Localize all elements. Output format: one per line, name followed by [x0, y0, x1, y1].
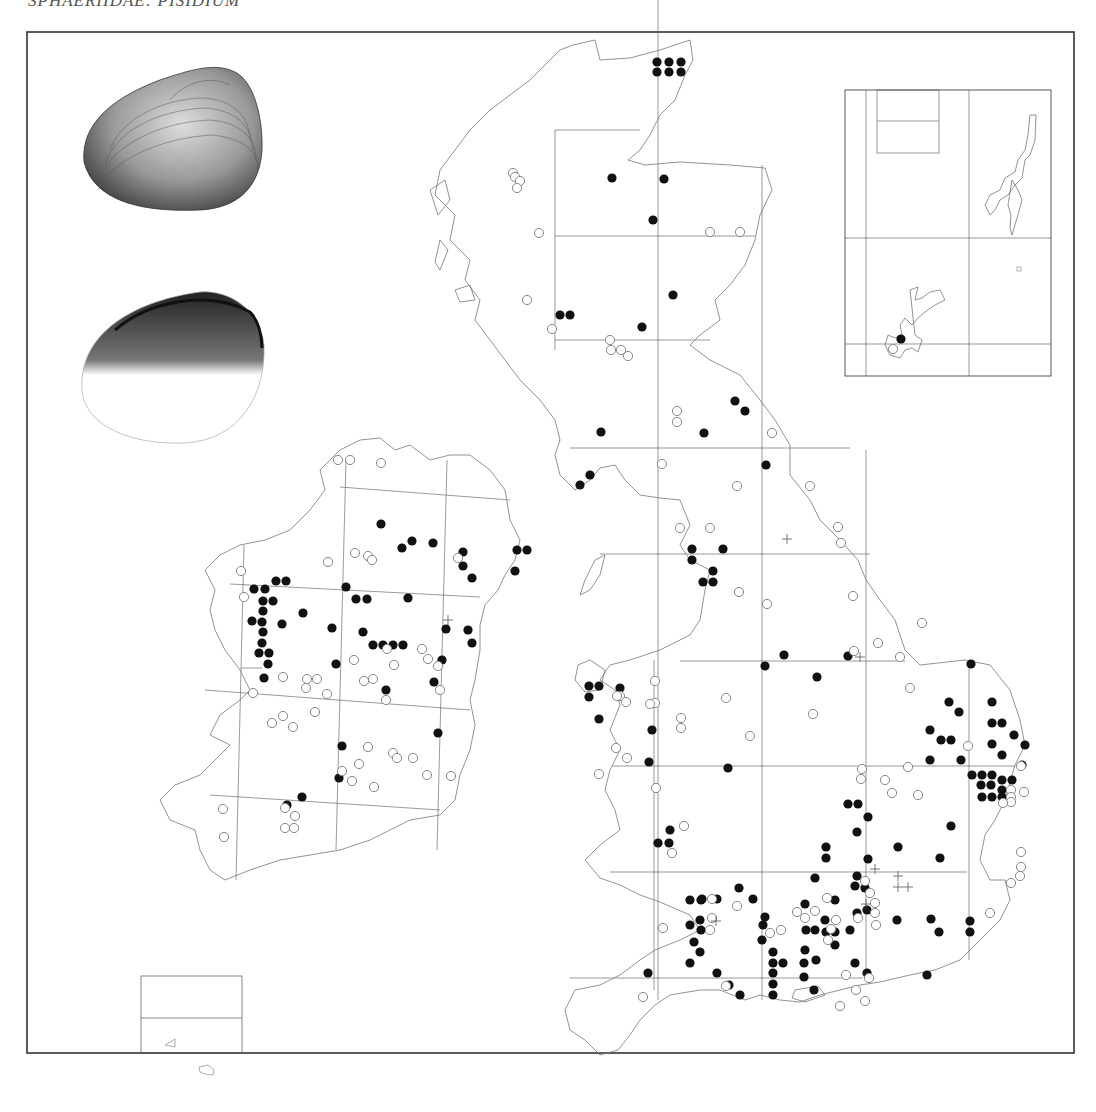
open-record-circle: [833, 522, 842, 531]
filled-record-dot: [757, 935, 766, 944]
open-record-circle: [650, 676, 659, 685]
filled-record-dot: [596, 427, 605, 436]
filled-record-dot: [820, 915, 829, 924]
filled-record-dot: [676, 57, 685, 66]
filled-record-dot: [644, 757, 653, 766]
filled-record-dot: [698, 577, 707, 586]
open-record-circle: [903, 762, 912, 771]
open-record-circle: [792, 907, 801, 916]
filled-record-dot: [893, 842, 902, 851]
open-record-circle: [808, 709, 817, 718]
open-record-circle: [888, 344, 897, 353]
filled-record-dot: [575, 480, 584, 489]
open-record-circle: [382, 644, 391, 653]
filled-record-dot: [850, 881, 859, 890]
open-record-circle: [278, 711, 287, 720]
open-record-circle: [288, 722, 297, 731]
open-record-circle: [446, 771, 455, 780]
filled-record-dot: [277, 619, 286, 628]
shell-exterior-drawing: [84, 67, 262, 210]
filled-record-dot: [607, 173, 616, 182]
filled-record-dot: [925, 725, 934, 734]
open-record-circle: [860, 996, 869, 1005]
filled-record-dot: [997, 718, 1006, 727]
open-record-circle: [835, 1001, 844, 1010]
filled-record-dot: [810, 873, 819, 882]
open-record-circle: [622, 753, 631, 762]
filled-record-dot: [976, 780, 985, 789]
plus-record-mark: [443, 615, 453, 625]
open-record-circle: [905, 683, 914, 692]
filled-record-dot: [594, 681, 603, 690]
distribution-map: [0, 0, 1096, 1112]
open-record-circle: [363, 742, 372, 751]
open-record-circle: [864, 973, 873, 982]
filled-record-dot: [800, 899, 809, 908]
open-record-circle: [350, 548, 359, 557]
filled-record-dot: [896, 334, 905, 343]
open-record-circle: [672, 406, 681, 415]
filled-record-dot: [779, 650, 788, 659]
open-record-circle: [732, 901, 741, 910]
open-record-circle: [310, 707, 319, 716]
filled-record-dot: [748, 894, 757, 903]
open-record-circle: [392, 753, 401, 762]
filled-record-dot: [664, 67, 673, 76]
filled-record-dot: [712, 968, 721, 977]
filled-record-dot: [643, 968, 652, 977]
filled-record-dot: [863, 812, 872, 821]
open-record-circle: [651, 783, 660, 792]
open-record-circle: [672, 417, 681, 426]
open-record-circle: [913, 790, 922, 799]
open-record-circle: [745, 731, 754, 740]
open-record-circle: [453, 553, 462, 562]
filled-record-dot: [925, 755, 934, 764]
open-record-circle: [422, 770, 431, 779]
filled-record-dot: [594, 714, 603, 723]
open-record-circle: [823, 935, 832, 944]
filled-record-dot: [254, 648, 263, 657]
filled-record-dot: [987, 697, 996, 706]
filled-record-dot: [965, 916, 974, 925]
filled-record-dot: [263, 659, 272, 668]
filled-record-dot: [926, 914, 935, 923]
filled-record-dot: [760, 661, 769, 670]
filled-record-dot: [944, 697, 953, 706]
filled-record-dot: [268, 596, 277, 605]
filled-record-dot: [892, 915, 901, 924]
filled-record-dot: [512, 545, 521, 554]
filled-record-dot: [997, 750, 1006, 759]
open-record-circle: [865, 888, 874, 897]
open-record-circle: [423, 654, 432, 663]
filled-record-dot: [696, 925, 705, 934]
filled-record-dot: [428, 538, 437, 547]
filled-record-dot: [810, 925, 819, 934]
open-record-circle: [638, 992, 647, 1001]
filled-record-dot: [843, 799, 852, 808]
open-record-circle: [1016, 761, 1025, 770]
filled-record-dot: [676, 67, 685, 76]
open-record-circle: [657, 459, 666, 468]
open-record-circle: [887, 788, 896, 797]
open-record-circle: [776, 925, 785, 934]
open-record-circle: [611, 743, 620, 752]
filled-record-dot: [258, 596, 267, 605]
open-record-circle: [408, 753, 417, 762]
plus-record-mark: [782, 534, 792, 544]
open-record-circle: [805, 481, 814, 490]
filled-record-dot: [327, 623, 336, 632]
filled-record-dot: [987, 792, 996, 801]
filled-record-dot: [768, 947, 777, 956]
open-record-circle: [337, 766, 346, 775]
filled-record-dot: [281, 576, 290, 585]
shell-interior-drawing: [82, 292, 264, 443]
open-record-circle: [963, 741, 972, 750]
filled-record-dot: [977, 792, 986, 801]
filled-record-dot: [337, 741, 346, 750]
filled-record-dot: [799, 958, 808, 967]
open-record-circle: [870, 908, 879, 917]
filled-record-dot: [922, 970, 931, 979]
filled-record-dot: [965, 927, 974, 936]
filled-record-dot: [522, 545, 531, 554]
open-record-circle: [312, 674, 321, 683]
